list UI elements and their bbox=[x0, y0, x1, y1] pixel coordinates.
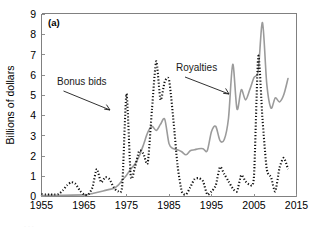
y-axis-title: Billions of dollars bbox=[4, 66, 16, 145]
y-tick-label: 3 bbox=[30, 130, 36, 142]
y-tick-label: 2 bbox=[30, 150, 36, 162]
y-tick-label: 1 bbox=[30, 170, 36, 182]
annotation-bonus-bids-label: Bonus bids bbox=[57, 76, 106, 87]
caption-remnant: . . . bbox=[24, 221, 34, 228]
x-tick-label: 1995 bbox=[200, 199, 224, 211]
x-tick-label: 1975 bbox=[115, 199, 139, 211]
x-tick-label: 1965 bbox=[72, 199, 96, 211]
y-tick-label: 4 bbox=[30, 109, 36, 121]
x-tick-label: 2015 bbox=[285, 199, 309, 211]
x-tick-label: 1985 bbox=[157, 199, 181, 211]
figure-background bbox=[0, 0, 319, 232]
y-tick-label: 5 bbox=[30, 89, 36, 101]
x-tick-label: 1955 bbox=[30, 199, 54, 211]
y-tick-label: 8 bbox=[30, 28, 36, 40]
y-tick-label: 9 bbox=[30, 8, 36, 20]
panel-label: (a) bbox=[48, 17, 60, 28]
annotation-royalties-label: Royalties bbox=[176, 62, 217, 73]
figure-container: 0 1 2 3 4 5 6 7 8 9 1955 1965 1975 1985 bbox=[0, 0, 319, 232]
y-tick-label: 6 bbox=[30, 69, 36, 81]
y-tick-label: 7 bbox=[30, 49, 36, 61]
x-tick-label: 2005 bbox=[242, 199, 266, 211]
chart-svg: 0 1 2 3 4 5 6 7 8 9 1955 1965 1975 1985 bbox=[0, 0, 319, 232]
